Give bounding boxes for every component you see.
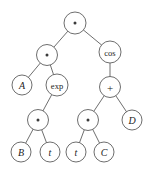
node-label: +	[107, 82, 113, 94]
tree-edge	[42, 130, 47, 143]
tree-edge	[93, 129, 100, 143]
expression-tree-diagram: cosAexp+DBttC	[0, 0, 152, 172]
node-label: t	[75, 147, 78, 158]
tree-node-operator-plus: +	[100, 77, 121, 98]
tree-node-variable-c: C	[94, 142, 114, 162]
operator-multiply-icon	[74, 22, 77, 25]
node-label: C	[101, 147, 108, 158]
nodes-layer: cosAexp+DBttC	[11, 12, 142, 162]
node-label: cos	[104, 48, 115, 58]
tree-node-variable-b: B	[11, 142, 31, 162]
tree-node-variable-d: D	[122, 110, 142, 130]
tree-edge	[28, 63, 40, 77]
tree-edge	[50, 65, 53, 75]
tree-edge	[26, 129, 33, 143]
tree-edge	[54, 31, 68, 47]
tree-node-operator-multiply	[78, 110, 99, 131]
tree-node-operator-multiply	[64, 12, 86, 34]
node-label: D	[127, 115, 136, 126]
tree-node-variable-a: A	[12, 75, 32, 95]
operator-multiply-icon	[87, 119, 90, 122]
tree-canvas: cosAexp+DBttC	[0, 0, 152, 172]
node-label: A	[18, 80, 26, 91]
node-label: t	[49, 147, 52, 158]
tree-node-variable-t: t	[40, 142, 60, 162]
tree-edge	[83, 30, 101, 45]
operator-multiply-icon	[37, 119, 40, 122]
tree-node-variable-t: t	[66, 142, 86, 162]
tree-node-function-exp: exp	[46, 74, 68, 96]
tree-edge	[43, 95, 52, 111]
tree-node-operator-multiply	[28, 110, 49, 131]
tree-edge	[94, 96, 104, 112]
tree-node-operator-multiply	[37, 45, 58, 66]
tree-edge	[80, 130, 85, 143]
tree-node-function-cos: cos	[99, 41, 121, 63]
operator-multiply-icon	[46, 54, 49, 57]
node-label: B	[18, 147, 24, 158]
node-label: exp	[51, 81, 63, 91]
tree-edge	[116, 96, 127, 112]
